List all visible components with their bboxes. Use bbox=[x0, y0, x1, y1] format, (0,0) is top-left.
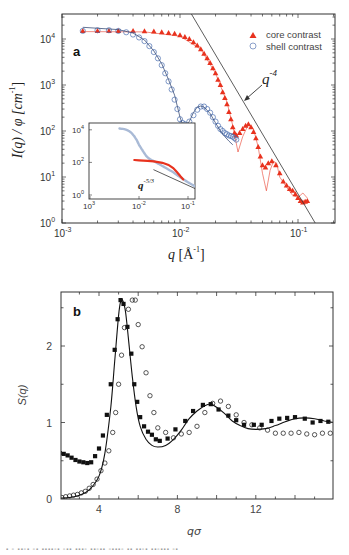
filled-square-point bbox=[85, 461, 89, 465]
panel-a-label: a bbox=[73, 44, 81, 59]
filled-square-point bbox=[89, 460, 93, 464]
panel-a-y-tick-label: 104 bbox=[40, 32, 55, 45]
core-point bbox=[277, 170, 283, 175]
panel-b-x-tick-label: 12 bbox=[250, 503, 262, 515]
filled-square-point bbox=[69, 456, 73, 460]
open-circle-point bbox=[111, 430, 115, 434]
filled-square-point bbox=[97, 446, 101, 450]
filled-square-point bbox=[285, 416, 289, 420]
inset-y-tick-label: 104 bbox=[72, 124, 84, 135]
panel-b-y-label: S(q) bbox=[16, 384, 28, 405]
filled-square-point bbox=[277, 417, 281, 421]
inset-chart: 10310-210-1100102104 q-5/3 bbox=[72, 123, 203, 211]
open-circle-point bbox=[113, 410, 117, 414]
filled-square-point bbox=[66, 453, 70, 457]
shell-contrast-marker-icon bbox=[250, 43, 256, 49]
core-point bbox=[187, 36, 193, 41]
inset-x-tick-label: 10-1 bbox=[181, 200, 195, 211]
panel-a-x-label: q [Å-1] bbox=[168, 245, 205, 262]
inset-x-tick-label: 103 bbox=[83, 200, 95, 211]
arrow-icon bbox=[244, 85, 262, 101]
panel-a-y-label: I(q) / φ [cm-1] bbox=[8, 82, 26, 159]
open-circle-point bbox=[152, 410, 156, 414]
figure: 10-310-210-1100101102103104 a core contr… bbox=[0, 0, 349, 555]
panel-b-y-tick-label: 2 bbox=[46, 340, 52, 352]
panel-b-chart: 4812012 b qσ S(q) bbox=[16, 292, 334, 538]
panel-b-x-label: qσ bbox=[187, 525, 202, 538]
panel-b-data bbox=[58, 298, 335, 500]
filled-square-point bbox=[77, 459, 81, 463]
panel-b-y-tick-label: 1 bbox=[46, 417, 52, 429]
filled-square-point bbox=[303, 417, 307, 421]
core-point bbox=[258, 153, 264, 158]
open-circle-point bbox=[148, 394, 152, 398]
legend-shell-contrast: shell contrast bbox=[266, 41, 322, 52]
panel-a-chart: 10-310-210-1100101102103104 a core contr… bbox=[8, 14, 335, 262]
panel-b-label: b bbox=[73, 304, 81, 319]
open-circle-point bbox=[107, 449, 111, 453]
panel-a-x-tick-label: 10-2 bbox=[172, 226, 189, 239]
filled-square-point bbox=[158, 439, 162, 443]
slope-q4-label: q-4 bbox=[262, 68, 277, 87]
filled-square-point bbox=[311, 420, 315, 424]
panel-a-y-tick-label: 101 bbox=[40, 170, 55, 183]
panel-a-y-tick-label: 102 bbox=[40, 124, 55, 137]
open-circle-point bbox=[297, 430, 301, 434]
filled-square-point bbox=[146, 430, 150, 434]
filled-square-point bbox=[62, 452, 66, 456]
open-circle-point bbox=[140, 345, 144, 349]
panel-b-x-tick-label: 4 bbox=[96, 503, 102, 515]
filled-square-point bbox=[101, 433, 105, 437]
legend: core contrast shell contrast bbox=[250, 29, 323, 52]
filled-square-point bbox=[173, 427, 177, 431]
open-circle-point bbox=[163, 430, 167, 434]
open-circle-point bbox=[156, 426, 160, 430]
open-circle-point bbox=[226, 404, 230, 408]
open-circle-point bbox=[273, 431, 277, 435]
filled-square-point bbox=[234, 418, 238, 422]
panel-b-y-tick-label: 0 bbox=[46, 493, 52, 505]
inset-x-tick-label: 10-2 bbox=[132, 200, 146, 211]
open-circle-point bbox=[289, 431, 293, 435]
panel-a-y-tick-label: 100 bbox=[40, 216, 55, 229]
open-circle-point bbox=[133, 298, 137, 302]
filled-square-point bbox=[105, 413, 109, 417]
core-contrast-marker-icon bbox=[250, 32, 257, 38]
open-circle-point bbox=[281, 431, 285, 435]
panel-a-y-tick-label: 103 bbox=[40, 78, 55, 91]
open-circle-point bbox=[203, 410, 207, 414]
open-circle-point bbox=[116, 382, 120, 386]
filled-square-point bbox=[154, 437, 158, 441]
open-circle-point bbox=[119, 353, 123, 357]
legend-core-contrast: core contrast bbox=[266, 29, 321, 40]
core-point bbox=[269, 158, 275, 163]
panel-a-x-tick-label: 10-1 bbox=[290, 226, 307, 239]
filled-square-point bbox=[93, 454, 97, 458]
filled-square-point bbox=[142, 424, 146, 428]
open-circle-point bbox=[328, 431, 332, 435]
filled-square-point bbox=[269, 419, 273, 423]
open-circle-point bbox=[126, 307, 130, 311]
filled-square-point bbox=[166, 436, 170, 440]
open-circle-point bbox=[144, 371, 148, 375]
filled-square-point bbox=[81, 460, 85, 464]
open-circle-point bbox=[187, 430, 191, 434]
inset-y-tick-label: 102 bbox=[72, 156, 84, 167]
caption-fragment: ▪ ▫ ▪▪▫▪ ▫▪ ▪▪▪▪▫▪ ▫▪▪ ▪▪▪▫ ▪▪▫▪▪ ▫▪▪▪▫ … bbox=[6, 546, 346, 552]
panel-a-x-tick-label: 10-3 bbox=[54, 226, 71, 239]
panel-b-x-tick-label: 8 bbox=[174, 503, 180, 515]
inset-y-tick-label: 100 bbox=[72, 189, 84, 200]
open-circle-point bbox=[234, 413, 238, 417]
open-circle-point bbox=[305, 432, 309, 436]
filled-square-point bbox=[73, 458, 77, 462]
open-circle-point bbox=[195, 424, 199, 428]
shell-point bbox=[124, 30, 129, 35]
open-circle-point bbox=[312, 433, 316, 437]
open-circle-point bbox=[136, 322, 140, 326]
panel-b-ticks: 4812012 bbox=[46, 292, 333, 515]
filled-square-point bbox=[150, 433, 154, 437]
open-circle-point bbox=[320, 431, 324, 435]
open-circle-point bbox=[218, 399, 222, 403]
